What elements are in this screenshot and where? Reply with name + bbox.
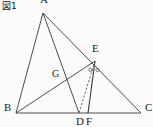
geometry-figure-panel: 図1 A B C D E F G (0, 0, 153, 127)
vertex-label-d: D (76, 116, 84, 127)
vertex-label-b: B (4, 102, 11, 113)
vertex-label-g: G (52, 68, 59, 79)
vertex-label-c: C (145, 102, 152, 113)
vertex-label-a: A (40, 0, 48, 5)
segment-ed-dashed (79, 61, 95, 113)
geometry-diagram-svg (0, 0, 153, 127)
segment-ad (43, 13, 79, 113)
angle-mark-def-icon (89, 68, 92, 71)
vertex-label-f: F (86, 116, 92, 127)
vertex-label-e: E (92, 43, 99, 54)
diagram-segments (16, 13, 141, 113)
